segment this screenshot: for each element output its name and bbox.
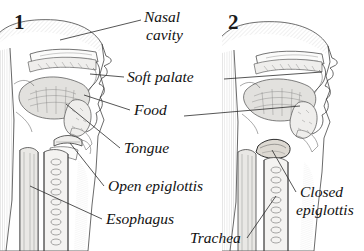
label-esophagus: Esophagus xyxy=(105,210,174,227)
label-closed-epiglottis-line2: epiglottis xyxy=(296,201,354,218)
label-trachea: Trachea xyxy=(190,229,241,246)
label-soft-palate: Soft palate xyxy=(127,68,194,85)
label-open-epiglottis: Open epiglottis xyxy=(108,177,203,194)
anatomy-figure: 1 2 Nasal cavity Soft palate Food Tongue… xyxy=(0,0,364,251)
label-nasal-cavity-line1: Nasal xyxy=(143,8,180,25)
label-closed-epiglottis-line1: Closed xyxy=(300,183,343,200)
esophagus-tube-1 xyxy=(20,148,38,251)
panel-number-2: 2 xyxy=(228,10,239,34)
panel-number-1: 1 xyxy=(14,10,25,34)
label-nasal-cavity-line2: cavity xyxy=(146,26,183,43)
label-food: Food xyxy=(133,101,167,118)
label-tongue: Tongue xyxy=(124,139,169,156)
